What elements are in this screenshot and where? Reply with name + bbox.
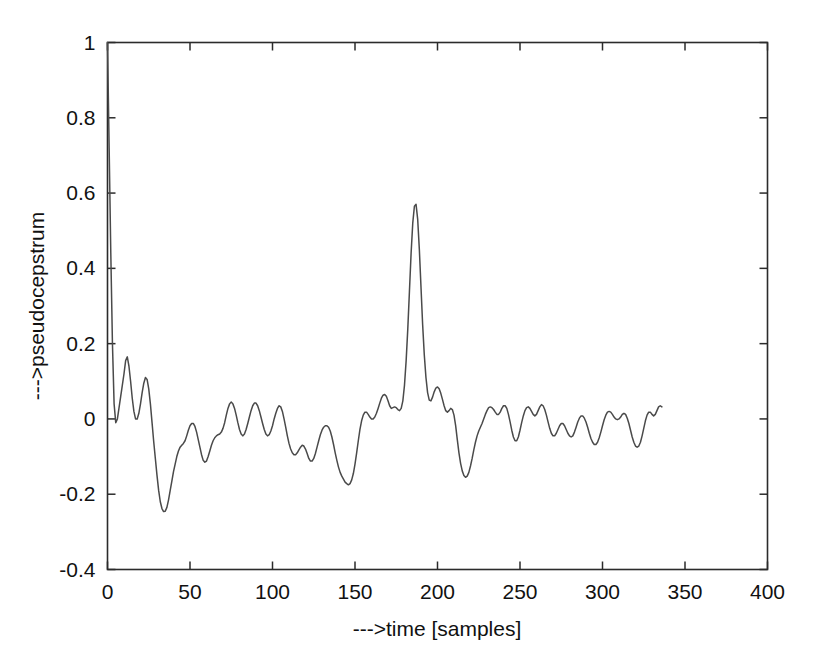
x-tick-label: 150 [337,580,372,603]
x-tick-label: 0 [102,580,114,603]
x-tick-label: 50 [178,580,201,603]
y-tick-label: -0.2 [59,482,95,505]
x-tick-label: 300 [585,580,620,603]
y-tick-label: 1 [84,31,96,54]
axis-ticks [108,43,768,570]
y-tick-label: -0.4 [59,558,96,581]
y-tick-label: 0.4 [66,256,96,279]
axes-frame [108,43,768,570]
x-tick-labels: 050100150200250300350400 [102,580,785,603]
y-tick-label: 0.2 [66,332,95,355]
x-tick-label: 200 [420,580,455,603]
x-tick-label: 400 [750,580,785,603]
x-tick-label: 350 [667,580,702,603]
y-tick-label: 0.8 [66,106,95,129]
figure-canvas: 050100150200250300350400 -0.4-0.200.20.4… [0,0,828,655]
y-tick-labels: -0.4-0.200.20.40.60.81 [59,31,96,581]
pseudocepstrum-line-chart: 050100150200250300350400 -0.4-0.200.20.4… [0,0,828,655]
x-tick-label: 100 [255,580,290,603]
y-tick-label: 0 [84,407,96,430]
y-tick-label: 0.6 [66,181,95,204]
x-tick-label: 250 [502,580,537,603]
y-axis-title: --->pseudocepstrum [25,212,48,401]
x-axis-title: --->time [samples] [353,617,522,640]
data-series-line [108,43,662,512]
